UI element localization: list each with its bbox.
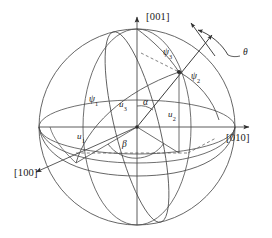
angle-label-psi2: ψ2 bbox=[191, 72, 200, 83]
axis-label-001: [001] bbox=[146, 12, 170, 23]
pole-point-marker bbox=[177, 70, 181, 74]
angle-label-alpha: α bbox=[143, 98, 148, 108]
beta-arc bbox=[108, 143, 164, 158]
u2-subscript: 2 bbox=[173, 115, 176, 122]
angle-label-theta: θ bbox=[243, 48, 248, 58]
u2-base-line bbox=[137, 127, 179, 153]
sphere-diagram-svg bbox=[0, 0, 272, 238]
u2-base: u bbox=[168, 109, 173, 119]
axis-label-100: [100] bbox=[14, 168, 38, 179]
angle-label-psi1: ψ1 bbox=[89, 95, 98, 106]
u3-subscript: 3 bbox=[124, 105, 127, 112]
component-label-u2: u2 bbox=[168, 110, 176, 121]
angle-label-psi3: ψ3 bbox=[163, 48, 172, 59]
psi3-subscript: 3 bbox=[169, 53, 172, 60]
axis-label-010: [010] bbox=[226, 133, 250, 144]
psi1-subscript: 1 bbox=[95, 100, 98, 107]
u1-base: u bbox=[77, 131, 82, 141]
theta-leader-line bbox=[228, 55, 240, 57]
figure-container: [001] [010] [100] ψ3 ψ2 ψ1 u3 u2 u1 α β … bbox=[0, 0, 272, 238]
u3-base: u bbox=[119, 99, 124, 109]
angle-label-beta: β bbox=[122, 140, 127, 150]
psi-arcs bbox=[50, 29, 219, 163]
axis-line-100 bbox=[36, 127, 137, 172]
component-label-u3: u3 bbox=[119, 100, 127, 111]
angle-arcs bbox=[108, 106, 164, 158]
theta-curved-arrow bbox=[198, 30, 228, 55]
component-label-u1: u1 bbox=[77, 132, 85, 143]
origin-marker bbox=[135, 125, 139, 129]
u1-subscript: 1 bbox=[82, 137, 85, 144]
theta-axis-arrow bbox=[191, 23, 215, 56]
psi2-subscript: 2 bbox=[197, 77, 200, 84]
